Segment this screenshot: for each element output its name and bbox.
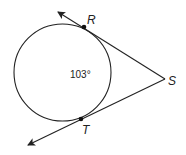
label-s: S <box>168 74 176 88</box>
tangent-ray-st <box>28 79 165 145</box>
circle <box>14 24 111 121</box>
geometry-diagram: R S T 103° <box>0 0 186 155</box>
point-r <box>82 25 87 30</box>
label-t: T <box>82 123 91 137</box>
label-r: R <box>87 13 96 27</box>
point-t <box>79 117 84 122</box>
arc-measure-label: 103° <box>70 69 91 80</box>
